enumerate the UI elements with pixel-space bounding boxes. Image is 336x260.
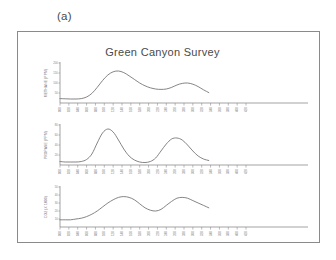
xtick-label-co2-0: 000 (58, 231, 62, 236)
xtick-label-propane-19: 380 (226, 169, 230, 174)
xtick-label-co2-14: 280 (182, 231, 186, 236)
xtick-label-co2-13: 260 (173, 231, 177, 236)
xtick-label-propane-11: 220 (156, 169, 160, 174)
xtick-label-propane-17: 340 (209, 169, 213, 174)
xtick-label-methane-10: 200 (147, 107, 151, 112)
xtick-label-propane-9: 180 (138, 169, 142, 174)
xtick-label-methane-2: 040 (76, 107, 80, 112)
xtick-label-co2-16: 320 (200, 231, 204, 236)
ytick-label-methane-0: 50 (55, 91, 58, 95)
ytick-label-co2-3: 40 (55, 193, 58, 197)
xtick-label-propane-3: 060 (85, 169, 89, 174)
chart-svg-co2: 1020304050CO2 (X 1000)000020040060080100… (32, 184, 308, 240)
xtick-label-propane-1: 020 (67, 169, 71, 174)
chart-svg-propane: 20406080PROPANE (PPM)0000200400600801001… (32, 122, 308, 178)
xtick-label-propane-12: 240 (164, 169, 168, 174)
xtick-label-methane-19: 380 (226, 107, 230, 112)
xtick-label-co2-3: 060 (85, 231, 89, 236)
xtick-label-methane-5: 100 (102, 107, 106, 112)
panel-label: (a) (57, 10, 72, 22)
xtick-label-co2-20: 400 (235, 231, 239, 236)
yaxis-title-co2: CO2 (X 1000) (44, 196, 48, 218)
xtick-label-propane-13: 260 (173, 169, 177, 174)
xtick-label-propane-16: 320 (200, 169, 204, 174)
chart-title: Green Canyon Survey (12, 46, 313, 58)
ytick-label-co2-2: 30 (55, 201, 58, 205)
xtick-label-co2-5: 100 (102, 231, 106, 236)
figure-root: (a) Green Canyon Survey 50100150200METHA… (0, 0, 336, 260)
ytick-label-co2-1: 20 (55, 209, 58, 213)
xtick-label-co2-2: 040 (76, 231, 80, 236)
ytick-label-propane-1: 40 (55, 143, 58, 147)
xtick-label-co2-6: 120 (111, 231, 115, 236)
xtick-label-methane-3: 060 (85, 107, 89, 112)
xtick-label-methane-9: 180 (138, 107, 142, 112)
xtick-label-methane-12: 240 (164, 107, 168, 112)
xtick-label-co2-4: 080 (94, 231, 98, 236)
xtick-label-methane-11: 220 (156, 107, 160, 112)
xtick-label-propane-21: 420 (244, 169, 248, 174)
xtick-label-propane-20: 400 (235, 169, 239, 174)
xtick-label-methane-20: 400 (235, 107, 239, 112)
ytick-label-methane-1: 100 (53, 81, 58, 85)
xtick-label-methane-18: 360 (218, 107, 222, 112)
xtick-label-propane-4: 080 (94, 169, 98, 174)
xtick-label-co2-19: 380 (226, 231, 230, 236)
chart-svg-methane: 50100150200METHANE (PPM)0000200400600801… (32, 60, 308, 116)
data-curve-propane (60, 129, 209, 163)
xtick-label-methane-16: 320 (200, 107, 204, 112)
xtick-label-methane-8: 160 (129, 107, 133, 112)
xtick-label-methane-17: 340 (209, 107, 213, 112)
xtick-label-methane-6: 120 (111, 107, 115, 112)
xtick-label-co2-7: 140 (120, 231, 124, 236)
yaxis-title-propane: PROPANE (PPM) (44, 131, 48, 159)
xtick-label-propane-14: 280 (182, 169, 186, 174)
chart-panel-co2: 1020304050CO2 (X 1000)000020040060080100… (32, 184, 308, 240)
ytick-label-methane-3: 200 (53, 61, 58, 65)
xtick-label-methane-7: 140 (120, 107, 124, 112)
xtick-label-co2-10: 200 (147, 231, 151, 236)
xtick-label-propane-15: 300 (191, 169, 195, 174)
figure-frame: Green Canyon Survey 50100150200METHANE (… (17, 31, 320, 243)
xtick-label-propane-7: 140 (120, 169, 124, 174)
xtick-label-propane-0: 000 (58, 169, 62, 174)
xtick-label-propane-2: 040 (76, 169, 80, 174)
xtick-label-methane-21: 420 (244, 107, 248, 112)
ytick-label-propane-0: 20 (55, 153, 58, 157)
xtick-label-co2-8: 160 (129, 231, 133, 236)
ytick-label-propane-2: 60 (55, 133, 58, 137)
xtick-label-methane-4: 080 (94, 107, 98, 112)
xtick-label-methane-15: 300 (191, 107, 195, 112)
chart-panel-propane: 20406080PROPANE (PPM)0000200400600801001… (32, 122, 308, 178)
xtick-label-propane-5: 100 (102, 169, 106, 174)
xtick-label-co2-18: 360 (218, 231, 222, 236)
xtick-label-co2-1: 020 (67, 231, 71, 236)
xtick-label-co2-9: 180 (138, 231, 142, 236)
xtick-label-co2-17: 340 (209, 231, 213, 236)
xtick-label-methane-13: 260 (173, 107, 177, 112)
ytick-label-co2-0: 10 (55, 217, 58, 221)
ytick-label-co2-4: 50 (55, 185, 58, 189)
data-curve-methane (60, 71, 209, 99)
xtick-label-propane-6: 120 (111, 169, 115, 174)
xtick-label-propane-10: 200 (147, 169, 151, 174)
ytick-label-methane-2: 150 (53, 71, 58, 75)
data-curve-co2 (60, 197, 209, 220)
yaxis-title-methane: METHANE (PPM) (44, 69, 48, 97)
xtick-label-methane-0: 000 (58, 107, 62, 112)
xtick-label-propane-18: 360 (218, 169, 222, 174)
xtick-label-methane-1: 020 (67, 107, 71, 112)
xtick-label-propane-8: 160 (129, 169, 133, 174)
xtick-label-co2-12: 240 (164, 231, 168, 236)
chart-panel-methane: 50100150200METHANE (PPM)0000200400600801… (32, 60, 308, 116)
xtick-label-co2-11: 220 (156, 231, 160, 236)
xtick-label-co2-15: 300 (191, 231, 195, 236)
ytick-label-propane-3: 80 (55, 123, 58, 127)
xtick-label-co2-21: 420 (244, 231, 248, 236)
xtick-label-methane-14: 280 (182, 107, 186, 112)
